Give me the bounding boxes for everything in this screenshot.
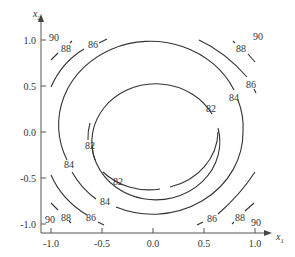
contour-label-84: 84 <box>229 92 239 103</box>
x-tick-label: 1.0 <box>249 238 262 249</box>
contour-label-88: 88 <box>236 43 246 54</box>
y-tick-label: -0.5 <box>20 173 36 184</box>
contour-label-86: 86 <box>246 79 256 90</box>
contour-label-88: 88 <box>235 212 245 223</box>
y-tick-label: 0.0 <box>24 127 37 138</box>
contour-label-90: 90 <box>251 217 261 228</box>
x-tick-label: 0.0 <box>147 238 160 249</box>
contour-88: 88 88 88 88 <box>51 41 255 224</box>
contour-label-90: 90 <box>253 31 263 42</box>
y-tick-label: -1.0 <box>20 219 36 230</box>
contour-label-84: 84 <box>64 159 74 170</box>
x-tick-label: 0.5 <box>198 238 211 249</box>
x-tick-label: -1.0 <box>43 238 59 249</box>
x-ticks: -1.0 -0.5 0.0 0.5 1.0 <box>43 228 261 249</box>
contour-label-86: 86 <box>207 213 217 224</box>
contour-label-82: 82 <box>206 103 216 114</box>
contour-84: 84 84 84 <box>59 41 244 214</box>
contour-label-82: 82 <box>113 176 123 187</box>
contour-label-88: 88 <box>61 212 71 223</box>
contour-label-88: 88 <box>61 43 71 54</box>
x-axis-label: x1 <box>275 231 284 245</box>
contour-label-90: 90 <box>45 214 55 225</box>
contour-label-86: 86 <box>88 39 98 50</box>
contour-label-82: 82 <box>85 140 95 151</box>
y-axis-label: x2 <box>32 8 41 22</box>
x-axis-arrow-icon <box>264 230 272 236</box>
contour-label-84: 84 <box>100 196 110 207</box>
contour-label-90: 90 <box>49 32 59 43</box>
contour-label-86: 86 <box>86 212 96 223</box>
y-tick-label: 1.0 <box>24 35 37 46</box>
x-tick-label: -0.5 <box>94 238 110 249</box>
y-ticks: 1.0 0.5 0.0 -0.5 -1.0 <box>20 35 46 230</box>
y-tick-label: 0.5 <box>24 81 37 92</box>
contour-82: 82 82 82 <box>85 73 220 200</box>
contour-plot: -1.0 -0.5 0.0 0.5 1.0 1.0 0.5 0.0 -0.5 -… <box>0 0 295 257</box>
contour-86: 86 86 86 86 <box>51 39 256 225</box>
